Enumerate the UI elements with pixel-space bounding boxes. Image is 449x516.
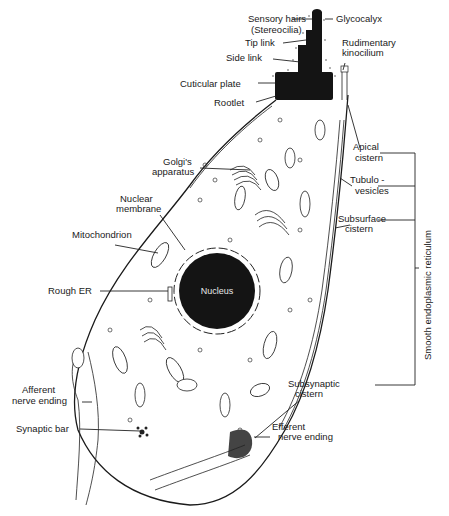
- label-stereocilia: (Stereocilia): [251, 24, 302, 35]
- label-smooth-er: Smooth endoplasmic reticulum: [422, 230, 433, 360]
- label-cuticular-plate: Cuticular plate: [180, 78, 241, 89]
- label-apical: Apical: [353, 141, 379, 152]
- label-golgi-2: apparatus: [152, 166, 195, 177]
- label-synaptic-bar: Synaptic bar: [16, 423, 69, 434]
- label-subsurface-cistern: cistern: [345, 223, 373, 234]
- label-glycocalyx: Glycocalyx: [336, 13, 382, 24]
- label-efferent-ending: nerve ending: [278, 431, 333, 442]
- nucleus: Nucleus: [174, 248, 260, 334]
- label-afferent-ending: nerve ending: [12, 395, 67, 406]
- label-rough-er: Rough ER: [48, 285, 92, 296]
- label-kinocilium: kinocilium: [342, 47, 384, 58]
- nerve-endings: [72, 348, 252, 505]
- label-tubulo: Tubulo -: [350, 174, 385, 185]
- label-rootlet: Rootlet: [214, 97, 244, 108]
- label-membrane: membrane: [116, 203, 161, 214]
- label-subsynaptic-cistern: cistern: [295, 388, 323, 399]
- label-vesicles: vesicles: [355, 185, 389, 196]
- nucleus-label: Nucleus: [201, 286, 234, 296]
- label-sensory-hairs: Sensory hairs: [248, 13, 306, 24]
- label-side-link: Side link: [226, 52, 262, 63]
- hair-cell-diagram: Nucleus: [0, 0, 449, 516]
- label-apical-cistern: cistern: [355, 152, 383, 163]
- label-afferent: Afferent: [22, 384, 55, 395]
- label-mitochondrion: Mitochondrion: [72, 229, 132, 240]
- label-tip-link: Tip link: [245, 37, 275, 48]
